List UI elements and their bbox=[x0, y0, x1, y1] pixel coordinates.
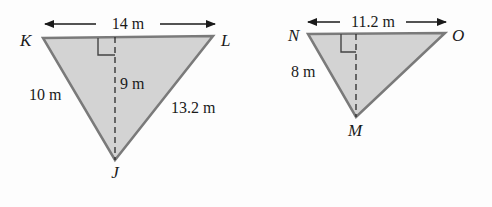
triangle-nom: 11.2 m N O M 8 m bbox=[287, 13, 464, 140]
label-nm-length: 8 m bbox=[291, 63, 316, 80]
vertex-l: L bbox=[220, 31, 230, 50]
label-kl-length: 14 m bbox=[112, 15, 145, 32]
label-lj-length: 13.2 m bbox=[171, 99, 216, 116]
label-height-left: 9 m bbox=[120, 75, 145, 92]
triangle-klj: 14 m K L J 10 m 9 m 13.2 m bbox=[19, 15, 230, 182]
vertex-j: J bbox=[111, 163, 120, 182]
vertex-n: N bbox=[287, 26, 301, 45]
vertex-m: M bbox=[347, 121, 363, 140]
triangle-nom-shape bbox=[308, 33, 445, 117]
label-kj-length: 10 m bbox=[29, 86, 62, 103]
triangle-klj-shape bbox=[43, 36, 213, 160]
similar-triangles-diagram: 14 m K L J 10 m 9 m 13.2 m 11.2 m N O M … bbox=[0, 0, 492, 207]
vertex-k: K bbox=[19, 31, 33, 50]
label-no-length: 11.2 m bbox=[351, 13, 395, 30]
vertex-o: O bbox=[452, 26, 464, 45]
